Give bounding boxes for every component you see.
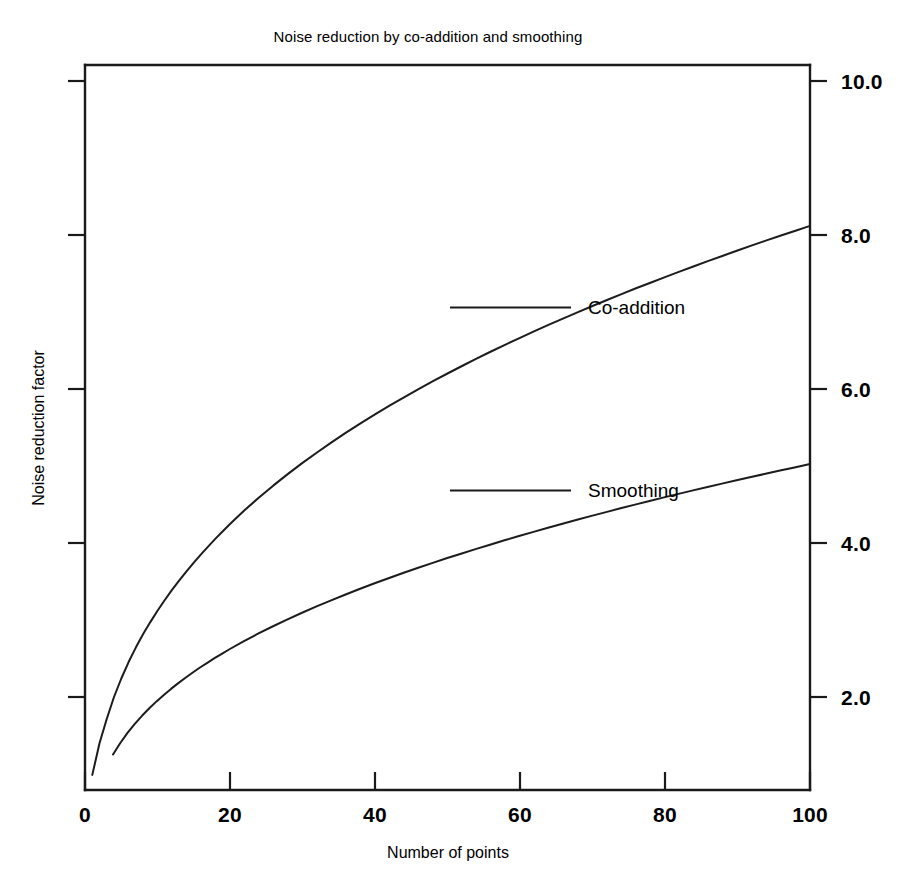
y-tick-label-8: 8.0 (841, 224, 871, 247)
y-tick-label-10: 10.0 (841, 70, 883, 93)
y-tick-label-6: 6.0 (841, 378, 871, 401)
y-axis-ticks-right (810, 81, 827, 697)
series-label-co-addition: Co-addition (588, 297, 685, 318)
y-axis-title: Noise reduction factor (30, 350, 47, 506)
x-axis-title: Number of points (387, 844, 509, 861)
chart-canvas: Noise reduction by co-addition and smoot… (0, 0, 907, 877)
chart-figure: Noise reduction by co-addition and smoot… (0, 0, 907, 877)
x-tick-label-20: 20 (218, 803, 242, 826)
series-label-smoothing: Smoothing (588, 480, 679, 501)
plot-frame (85, 65, 810, 790)
y-tick-label-2: 2.0 (841, 686, 871, 709)
y-tick-label-4: 4.0 (841, 532, 871, 555)
x-axis-ticks (85, 772, 810, 790)
chart-title: Noise reduction by co-addition and smoot… (274, 28, 583, 45)
series-curve-smoothing (113, 464, 810, 754)
x-tick-label-80: 80 (653, 803, 677, 826)
x-tick-label-100: 100 (792, 803, 828, 826)
x-tick-label-0: 0 (79, 803, 91, 826)
x-tick-label-60: 60 (508, 803, 532, 826)
x-tick-label-40: 40 (363, 803, 387, 826)
y-axis-ticks-left (68, 81, 85, 697)
